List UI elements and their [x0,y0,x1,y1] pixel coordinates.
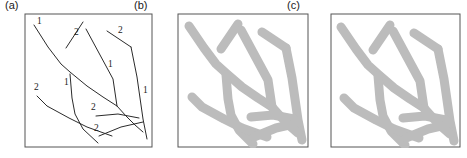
segment-order-label: 2 [118,25,123,35]
panel-b-caption: (b) [134,0,147,11]
panel-b-plot [177,13,309,148]
panel-c-plot [330,13,461,148]
panel-a-plot: 122111222 [24,13,153,148]
segment-order-label: 2 [34,82,39,92]
panel-c-caption: (c) [287,0,300,11]
panel-a-caption: (a) [5,0,18,11]
segment-order-label: 2 [74,27,79,37]
segment-order-label: 1 [37,16,42,26]
three-panel-figure: (a) 122111222 (b) (c) [0,0,467,158]
segment-order-label: 2 [91,102,96,112]
segment-order-label: 1 [108,59,113,69]
segment-order-label: 1 [143,85,148,95]
segment-order-label: 2 [94,123,99,133]
segment-order-label: 1 [64,77,69,87]
